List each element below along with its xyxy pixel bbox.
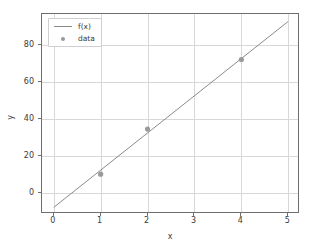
series-scatter-data: [98, 57, 244, 177]
data-point[interactable]: [239, 57, 244, 62]
y-tick-mark-4: [38, 44, 41, 45]
x-tick-label-0: 0: [50, 216, 55, 225]
x-tick-label-3: 3: [191, 216, 196, 225]
x-axis-label: x: [168, 232, 173, 241]
legend-line-swatch-icon: [53, 22, 73, 31]
x-tick-label-5: 5: [285, 216, 290, 225]
legend[interactable]: f(x) data: [48, 18, 102, 47]
y-axis-label: y: [6, 115, 15, 120]
data-point[interactable]: [98, 172, 103, 177]
x-tick-label-1: 1: [97, 216, 102, 225]
y-tick-mark-1: [38, 155, 41, 156]
line-path-f(x): [54, 21, 289, 207]
y-tick-label-0: 0: [29, 187, 34, 196]
legend-label-data: data: [78, 34, 95, 43]
legend-entry-fx[interactable]: f(x): [53, 22, 95, 31]
legend-marker-swatch-icon: [53, 34, 73, 43]
y-tick-label-3: 60: [24, 77, 34, 86]
x-tick-label-2: 2: [144, 216, 149, 225]
y-tick-mark-2: [38, 118, 41, 119]
y-tick-label-1: 20: [24, 150, 34, 159]
y-tick-mark-3: [38, 81, 41, 82]
y-tick-mark-0: [38, 192, 41, 193]
legend-entry-data[interactable]: data: [53, 34, 95, 43]
y-tick-label-4: 80: [24, 40, 34, 49]
legend-label-fx: f(x): [78, 22, 91, 31]
series-line-fx: [54, 21, 289, 207]
figure-canvas: f(x) data 012345020406080 x y: [0, 0, 314, 249]
x-tick-label-4: 4: [238, 216, 243, 225]
data-point[interactable]: [145, 127, 150, 132]
y-tick-label-2: 40: [24, 113, 34, 122]
